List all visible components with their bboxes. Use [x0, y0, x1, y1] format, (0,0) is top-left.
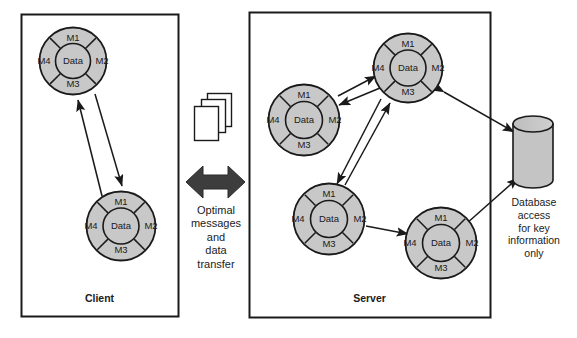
object-core-label: Data — [426, 237, 456, 248]
database-caption-line-4: information — [495, 234, 573, 247]
object-segment-label-m4: M4 — [79, 220, 103, 231]
object-core-label: Data — [314, 213, 344, 224]
object-core-label: Data — [58, 55, 88, 66]
object-segment-label-m3: M3 — [396, 86, 420, 97]
database-caption: Database access for key information only — [495, 196, 573, 260]
object-segment-label-m1: M1 — [429, 212, 453, 223]
database-caption-line-2: access — [495, 209, 573, 222]
object-segment-label-m3: M3 — [317, 238, 341, 249]
object-segment-label-m3: M3 — [61, 78, 85, 89]
object-core-label: Data — [393, 62, 423, 73]
object-segment-label-m3: M3 — [292, 139, 316, 150]
object-segment-label-m2: M2 — [139, 220, 163, 231]
object-segment-label-m1: M1 — [109, 196, 133, 207]
object-segment-label-m4: M4 — [286, 213, 310, 224]
stacked-pages-icon — [195, 94, 232, 141]
server-panel-label: Server — [249, 292, 490, 304]
database-cylinder-icon — [513, 116, 553, 188]
object-core-label: Data — [289, 114, 319, 125]
object-segment-label-m2: M2 — [426, 62, 450, 73]
database-caption-line-1: Database — [495, 196, 573, 209]
transfer-caption-line-3: and — [181, 231, 251, 244]
object-segment-label-m4: M4 — [398, 237, 422, 248]
object-segment-label-m1: M1 — [396, 38, 420, 49]
transfer-caption: Optimal messages and data transfer — [181, 204, 251, 271]
object-segment-label-m2: M2 — [323, 114, 347, 125]
transfer-caption-line-2: messages — [181, 217, 251, 230]
object-segment-label-m2: M2 — [348, 213, 372, 224]
database-caption-line-5: only — [495, 247, 573, 260]
object-segment-label-m4: M4 — [32, 55, 56, 66]
object-segment-label-m1: M1 — [292, 89, 316, 100]
object-segment-label-m4: M4 — [366, 62, 390, 73]
transfer-caption-line-4: data — [181, 244, 251, 257]
object-segment-label-m1: M1 — [61, 32, 85, 43]
object-segment-label-m4: M4 — [261, 114, 285, 125]
object-segment-label-m2: M2 — [460, 237, 484, 248]
double-headed-arrow-icon — [186, 166, 245, 198]
database-caption-line-3: for key — [495, 222, 573, 235]
transfer-caption-line-5: transfer — [181, 258, 251, 271]
transfer-caption-line-1: Optimal — [181, 204, 251, 217]
diagram-canvas: M1 M2 M3 M4 Data M1 M2 M3 M4 Data M1 M2 … — [0, 0, 577, 338]
object-segment-label-m3: M3 — [429, 262, 453, 273]
object-segment-label-m2: M2 — [90, 55, 114, 66]
object-segment-label-m1: M1 — [317, 188, 341, 199]
client-panel-label: Client — [21, 292, 178, 304]
object-core-label: Data — [106, 220, 136, 231]
object-segment-label-m3: M3 — [109, 244, 133, 255]
diagram-graphics — [0, 0, 577, 338]
